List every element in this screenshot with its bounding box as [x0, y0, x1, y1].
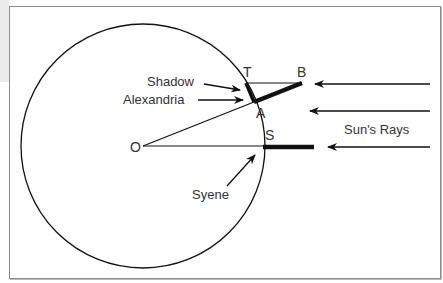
label-o: O [130, 139, 141, 155]
shadow-pointer-arrow [204, 84, 240, 90]
shadow-line-ab [254, 83, 302, 102]
label-sun-rays: Sun's Rays [344, 122, 410, 137]
syene-pointer-arrow [227, 155, 255, 186]
label-s: S [265, 127, 274, 143]
label-a: A [256, 105, 266, 121]
label-syene: Syene [192, 187, 229, 202]
label-shadow: Shadow [147, 74, 195, 89]
radius-line-oa [143, 102, 254, 146]
label-t: T [243, 64, 252, 80]
label-alexandria: Alexandria [123, 92, 185, 107]
label-b: B [297, 64, 306, 80]
eratosthenes-diagram: O T B A S Shadow Alexandria Syene Sun's … [0, 0, 443, 283]
